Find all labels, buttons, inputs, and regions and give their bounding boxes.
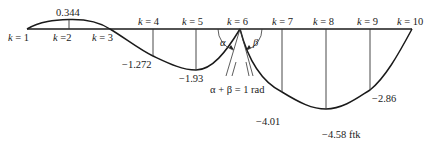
value-k5: −1.93 [179,73,203,84]
axis-label-k5: k = 5 [182,16,203,27]
beta-label: β [252,37,259,48]
value-k2: 0.344 [56,7,80,18]
axis-label-k4: k = 4 [138,16,160,27]
axis-label-k2: k =2 [53,32,71,43]
axis-label-k7: k = 7 [272,16,293,27]
relation-pointer-left [232,62,236,76]
relation-pointer-right [246,62,249,76]
value-k4: −1.272 [122,59,152,70]
axis-label-k10: k = 10 [397,16,423,27]
positive-lobe-curve [27,19,110,29]
alpha-label: α [220,37,226,48]
axis-label-k9: k = 9 [357,16,378,27]
axis-label-k6: k = 6 [227,16,248,27]
influence-line-diagram: k = 1 k =2 k = 3 k = 4 k = 5 k = 6 k = 7… [0,0,435,142]
value-k8: −4.58 ftk [322,129,361,140]
tangent-right [240,29,253,76]
value-k9: −2.86 [372,93,396,104]
angle-relation-label: α + β = 1 rad [210,84,265,95]
axis-label-k1: k = 1 [8,32,29,43]
axis-label-k3: k = 3 [92,32,113,43]
axis-label-k8: k = 8 [313,16,334,27]
tangent-left [226,29,240,76]
value-k7: −4.01 [256,116,280,127]
